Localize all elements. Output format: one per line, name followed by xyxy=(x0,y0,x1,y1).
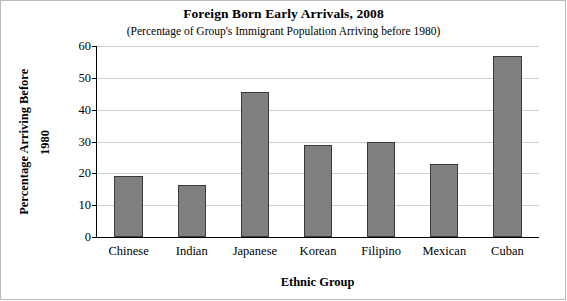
x-tick-label: Indian xyxy=(176,244,208,259)
bar xyxy=(178,185,206,237)
y-tick-mark xyxy=(92,205,97,206)
y-tick-label: 60 xyxy=(79,39,92,54)
x-tick-label: Japanese xyxy=(233,244,277,259)
x-axis-label: Ethnic Group xyxy=(96,275,539,290)
chart-subtitle: (Percentage of Group's Immigrant Populat… xyxy=(0,25,567,37)
x-tick-label: Cuban xyxy=(491,244,524,259)
y-tick-label: 0 xyxy=(85,230,91,245)
y-tick-mark xyxy=(92,46,97,47)
x-tick-label: Chinese xyxy=(108,244,148,259)
gridline xyxy=(97,46,539,47)
bar xyxy=(114,176,142,237)
y-tick-mark xyxy=(92,78,97,79)
y-axis-label-line2: 1980 xyxy=(38,130,53,155)
y-tick-label: 30 xyxy=(79,134,92,149)
gridline xyxy=(97,142,539,143)
x-tick-label: Filipino xyxy=(361,244,401,259)
y-tick-label: 50 xyxy=(79,70,92,85)
bar xyxy=(241,92,269,237)
y-tick-label: 40 xyxy=(79,102,92,117)
bar xyxy=(430,164,458,237)
y-tick-label: 20 xyxy=(79,166,92,181)
y-tick-mark xyxy=(92,142,97,143)
bar xyxy=(493,56,521,237)
y-tick-label: 10 xyxy=(79,198,92,213)
gridline xyxy=(97,110,539,111)
chart-container: Foreign Born Early Arrivals, 2008 (Perce… xyxy=(0,0,567,301)
y-tick-mark xyxy=(92,237,97,238)
y-tick-mark xyxy=(92,110,97,111)
gridline xyxy=(97,78,539,79)
plot-area: 0102030405060ChineseIndianJapaneseKorean… xyxy=(96,46,539,238)
y-axis-label-second-line: 1980 xyxy=(34,46,56,238)
x-tick-label: Korean xyxy=(300,244,337,259)
y-axis-label-line1: Percentage Arriving Before xyxy=(17,69,33,215)
chart-title: Foreign Born Early Arrivals, 2008 xyxy=(0,6,567,22)
bar xyxy=(304,145,332,237)
y-tick-mark xyxy=(92,173,97,174)
bar xyxy=(367,142,395,238)
x-tick-label: Mexican xyxy=(422,244,466,259)
y-axis-label: Percentage Arriving Before xyxy=(14,46,36,238)
